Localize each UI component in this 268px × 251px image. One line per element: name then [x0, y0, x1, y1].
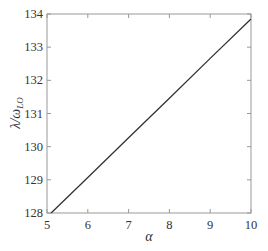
y-axis-ticks: 128129130131132133134 — [24, 7, 251, 220]
x-tick-label: 7 — [125, 218, 131, 232]
y-axis-label-group: λ/ωLO — [8, 97, 25, 130]
data-series — [51, 19, 251, 213]
y-axis-label: λ/ωLO — [8, 97, 25, 130]
plot-frame — [47, 14, 251, 213]
plot-border — [47, 14, 251, 213]
x-tick-label: 8 — [166, 218, 172, 232]
x-axis-ticks: 5678910 — [44, 14, 257, 232]
y-tick-label: 130 — [24, 140, 43, 154]
x-tick-label: 5 — [44, 218, 50, 232]
y-axis-label-subscript: LO — [15, 97, 25, 110]
line-chart: 128129130131132133134 5678910 α λ/ωLO — [0, 0, 268, 251]
y-tick-label: 134 — [24, 7, 44, 21]
y-tick-label: 128 — [24, 206, 43, 220]
x-tick-label: 6 — [85, 218, 91, 232]
y-axis-label-main: λ/ω — [8, 109, 23, 130]
y-tick-label: 131 — [24, 107, 43, 121]
series-line — [51, 19, 251, 213]
x-axis-label: α — [145, 229, 153, 244]
x-tick-label: 9 — [207, 218, 213, 232]
y-tick-label: 133 — [24, 40, 43, 54]
y-tick-label: 132 — [24, 73, 43, 87]
x-tick-label: 10 — [245, 218, 258, 232]
y-tick-label: 129 — [24, 173, 43, 187]
